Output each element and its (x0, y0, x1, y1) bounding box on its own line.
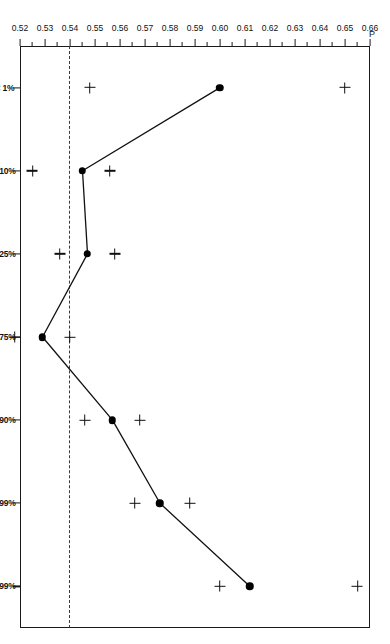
x-tick-label: <10% (0, 166, 16, 176)
y-tick-minor (32, 42, 33, 46)
y-tick-label: 0.55 (87, 23, 104, 33)
y-tick-label: 0.61 (237, 23, 254, 33)
data-point (246, 583, 254, 591)
series-line (20, 46, 370, 628)
y-tick-minor (232, 42, 233, 46)
y-tick (194, 39, 195, 46)
y-tick-minor (257, 42, 258, 46)
y-tick-minor (157, 42, 158, 46)
y-axis-title: P (369, 29, 375, 39)
x-tick-label: <90% (0, 415, 16, 425)
y-tick-label: 0.64 (312, 23, 329, 33)
data-point (39, 333, 47, 341)
y-tick (344, 39, 345, 46)
x-tick-label: <99% (0, 498, 16, 508)
y-tick (119, 39, 120, 46)
y-tick-label: 0.56 (112, 23, 129, 33)
y-tick-label: 0.63 (287, 23, 304, 33)
x-tick-label: <25% (0, 249, 16, 259)
data-point (156, 500, 164, 508)
y-tick (269, 39, 270, 46)
y-tick-label: 0.60 (212, 23, 229, 33)
y-tick-label: 0.65 (337, 23, 354, 33)
y-tick-label: 0.52 (12, 23, 29, 33)
data-point (109, 416, 117, 424)
plot-area (20, 46, 370, 628)
y-tick-label: 0.62 (262, 23, 279, 33)
y-tick-minor (82, 42, 83, 46)
y-tick-label: 0.58 (162, 23, 179, 33)
x-tick-label: < 1% (0, 83, 14, 93)
y-tick-minor (107, 42, 108, 46)
x-tick-label: >99% (0, 581, 16, 591)
y-tick-minor (57, 42, 58, 46)
y-tick (19, 39, 20, 46)
data-point (84, 250, 92, 258)
rotated-figure-wrapper: < 1%<10%<25%<75%<90%<99%>99% 0.660.650.6… (0, 0, 390, 644)
y-tick-minor (282, 42, 283, 46)
chart-figure: < 1%<10%<25%<75%<90%<99%>99% 0.660.650.6… (0, 0, 390, 644)
data-point (216, 84, 224, 92)
data-point (79, 167, 87, 175)
x-tick-label: <75% (0, 332, 16, 342)
y-tick (44, 39, 45, 46)
y-tick-minor (332, 42, 333, 46)
y-tick (94, 39, 95, 46)
y-tick (369, 39, 370, 46)
y-tick-minor (132, 42, 133, 46)
y-tick (244, 39, 245, 46)
y-tick-label: 0.54 (62, 23, 79, 33)
y-tick-label: 0.53 (37, 23, 54, 33)
y-tick (69, 39, 70, 46)
y-tick (319, 39, 320, 46)
y-tick-minor (207, 42, 208, 46)
y-tick-minor (357, 42, 358, 46)
y-tick (219, 39, 220, 46)
y-tick-label: 0.59 (187, 23, 204, 33)
y-tick-label: 0.57 (137, 23, 154, 33)
y-tick (169, 39, 170, 46)
y-tick-minor (182, 42, 183, 46)
y-tick (294, 39, 295, 46)
y-tick-minor (307, 42, 308, 46)
y-tick (144, 39, 145, 46)
